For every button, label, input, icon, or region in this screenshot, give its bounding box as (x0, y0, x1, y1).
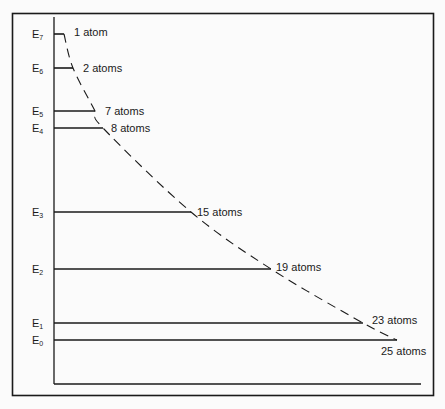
atom-count-label-e2: 19 atoms (276, 261, 322, 273)
atom-count-label-e4: 8 atoms (111, 122, 151, 134)
atom-count-label-e0: 25 atoms (381, 345, 427, 357)
energy-level-diagram: E71 atomE62 atomsE57 atomsE48 atomsE315 … (0, 0, 445, 409)
dashed-population-curve (64, 34, 397, 340)
energy-level-name-e6: E6 (32, 62, 43, 75)
atom-count-label-e1: 23 atoms (372, 314, 418, 326)
energy-levels: E71 atomE62 atomsE57 atomsE48 atomsE315 … (32, 26, 427, 357)
energy-level-name-e5: E5 (32, 105, 43, 118)
energy-level-name-e3: E3 (32, 206, 43, 219)
atom-count-label-e3: 15 atoms (197, 206, 243, 218)
atom-count-label-e5: 7 atoms (105, 105, 145, 117)
atom-count-label-e7: 1 atom (74, 26, 108, 38)
energy-level-name-e0: E0 (32, 334, 43, 347)
energy-level-name-e1: E1 (32, 317, 43, 330)
energy-level-name-e2: E2 (32, 263, 43, 276)
atom-count-label-e6: 2 atoms (83, 62, 123, 74)
energy-level-name-e4: E4 (32, 122, 43, 135)
outer-frame (13, 14, 434, 396)
energy-level-name-e7: E7 (32, 28, 43, 41)
